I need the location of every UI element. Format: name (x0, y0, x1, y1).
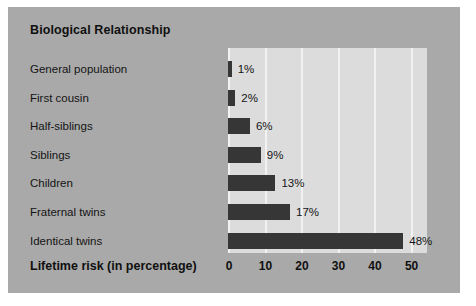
x-tick-label: 30 (332, 259, 345, 273)
chart-title: Biological Relationship (30, 23, 171, 37)
bar (228, 204, 290, 220)
category-label: Siblings (30, 149, 70, 161)
category-label: First cousin (30, 92, 89, 104)
x-axis-title: Lifetime risk (in percentage) (30, 259, 197, 273)
bar-value-label: 17% (296, 206, 319, 218)
bar (228, 90, 235, 106)
bar (228, 233, 403, 249)
chart-row: First cousin2% (8, 84, 460, 112)
bar (228, 61, 232, 77)
chart-row: General population1% (8, 55, 460, 83)
bar-value-label: 6% (256, 120, 273, 132)
x-tick-label: 50 (405, 259, 418, 273)
bar (228, 175, 275, 191)
chart-row: Children13% (8, 169, 460, 197)
bar-value-label: 13% (281, 177, 304, 189)
bar-value-label: 1% (238, 63, 255, 75)
category-label: Children (30, 177, 73, 189)
chart-row: Identical twins48% (8, 227, 460, 255)
category-label: General population (30, 63, 127, 75)
chart-figure: Biological Relationship General populati… (8, 7, 460, 293)
chart-row: Fraternal twins17% (8, 198, 460, 226)
bar-value-label: 48% (409, 235, 432, 247)
bar (228, 118, 250, 134)
category-label: Half-siblings (30, 120, 93, 132)
bar-value-label: 9% (267, 149, 284, 161)
x-tick-label: 20 (295, 259, 308, 273)
bar (228, 147, 261, 163)
chart-row: Siblings9% (8, 141, 460, 169)
category-label: Fraternal twins (30, 206, 105, 218)
x-tick-label: 40 (368, 259, 381, 273)
x-tick-label: 10 (259, 259, 272, 273)
bar-value-label: 2% (241, 92, 258, 104)
category-label: Identical twins (30, 235, 102, 247)
x-tick-label: 0 (226, 259, 233, 273)
chart-row: Half-siblings6% (8, 112, 460, 140)
